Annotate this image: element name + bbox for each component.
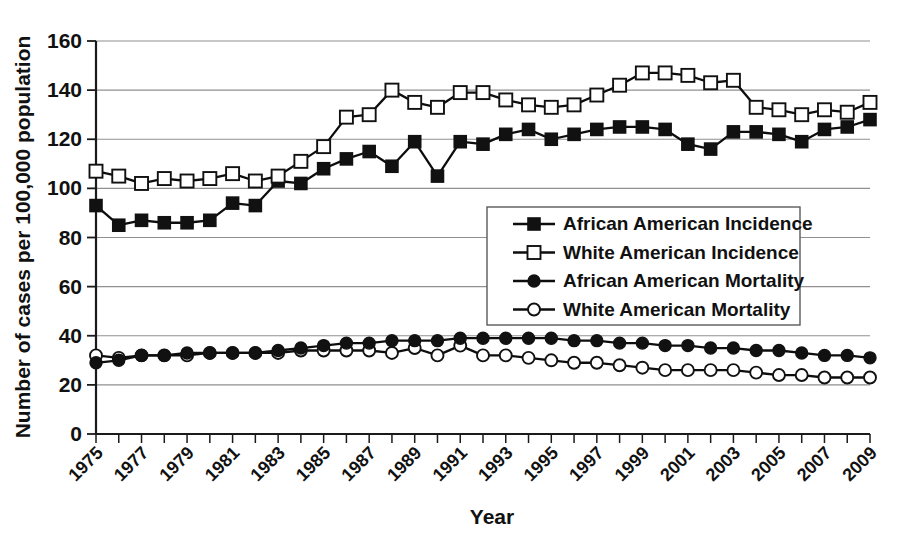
data-point-marker [773,128,785,140]
data-point-marker [227,197,239,209]
data-point-marker [659,123,671,135]
data-point-marker [636,362,648,374]
x-tick-label: 1989 [383,443,425,485]
data-point-marker [796,369,808,381]
data-point-marker [545,101,558,114]
data-point-marker [528,304,540,316]
data-point-marker [431,335,443,347]
legend-label: African American Mortality [563,270,805,291]
data-point-marker [614,121,626,133]
data-point-marker [864,352,876,364]
data-point-marker [136,214,148,226]
data-point-marker [363,146,375,158]
y-tick-label: 80 [59,226,82,249]
data-point-marker [750,344,762,356]
data-point-marker [522,98,535,111]
data-point-marker [203,172,216,185]
chart-legend: African American IncidenceWhite American… [487,207,813,325]
data-point-marker [818,372,830,384]
data-point-marker [614,337,626,349]
x-tick-label: 2003 [702,443,744,485]
data-point-marker [727,364,739,376]
data-point-marker [90,200,102,212]
data-point-marker [409,335,421,347]
data-point-marker [386,347,398,359]
data-point-marker [796,347,808,359]
data-point-marker [841,121,853,133]
data-point-marker [545,354,557,366]
data-point-marker [727,74,740,87]
y-tick-label: 120 [47,127,82,150]
data-point-marker [204,214,216,226]
x-tick-label: 1999 [611,443,653,485]
y-tick-label: 0 [70,422,82,445]
data-point-marker [568,98,581,111]
data-point-marker [181,347,193,359]
x-tick-label: 1985 [292,443,334,485]
x-tick-label: 1983 [246,443,288,485]
x-tick-label: 2009 [838,443,880,485]
data-point-marker [818,103,831,116]
data-point-marker [682,364,694,376]
data-point-marker [773,344,785,356]
data-point-marker [750,126,762,138]
data-point-marker [750,101,763,114]
data-point-marker [135,177,148,190]
data-point-marker [454,332,466,344]
data-point-marker [363,108,376,121]
data-point-marker [454,86,467,99]
data-point-marker [363,337,375,349]
data-point-marker [249,347,261,359]
data-point-marker [818,349,830,361]
data-point-marker [613,79,626,92]
data-point-marker [528,275,540,287]
data-point-marker [528,246,541,259]
x-axis-title: Year [470,505,514,528]
data-point-marker [705,143,717,155]
data-point-marker [772,103,785,116]
data-point-marker [636,66,649,79]
y-axis-tick-labels: 020406080100120140160 [47,29,82,445]
data-point-marker [477,86,490,99]
data-point-marker [318,163,330,175]
x-tick-label: 1991 [429,443,471,485]
data-point-marker [864,114,876,126]
data-point-marker [317,140,330,153]
y-tick-label: 60 [59,275,82,298]
data-point-marker [750,367,762,379]
line-chart: 020406080100120140160 197519771979198119… [0,0,900,535]
y-tick-label: 140 [47,78,82,101]
data-point-marker [682,138,694,150]
data-point-marker [727,342,739,354]
data-point-marker [158,217,170,229]
data-point-marker [841,372,853,384]
data-point-marker [340,337,352,349]
x-tick-label: 1997 [565,443,607,485]
y-axis-title: Number of cases per 100,000 population [11,36,34,439]
data-point-marker [705,342,717,354]
data-point-marker [841,349,853,361]
data-point-marker [636,337,648,349]
x-tick-label: 1987 [338,443,380,485]
data-point-marker [545,133,557,145]
data-point-marker [523,352,535,364]
x-axis-tick-labels: 1975197719791981198319851987198919911993… [64,443,880,485]
data-point-marker [318,340,330,352]
x-tick-label: 1981 [201,443,243,485]
data-point-marker [385,84,398,97]
y-tick-label: 100 [47,176,82,199]
data-point-marker [386,160,398,172]
data-point-marker [181,175,194,188]
data-point-marker [340,111,353,124]
data-point-marker [523,332,535,344]
data-point-marker [294,155,307,168]
data-point-marker [431,170,443,182]
y-tick-label: 20 [59,373,82,396]
data-point-marker [568,357,580,369]
data-point-marker [113,354,125,366]
data-point-marker [528,218,540,230]
data-point-marker [295,177,307,189]
data-point-marker [272,170,285,183]
data-point-marker [864,372,876,384]
data-point-marker [659,364,671,376]
